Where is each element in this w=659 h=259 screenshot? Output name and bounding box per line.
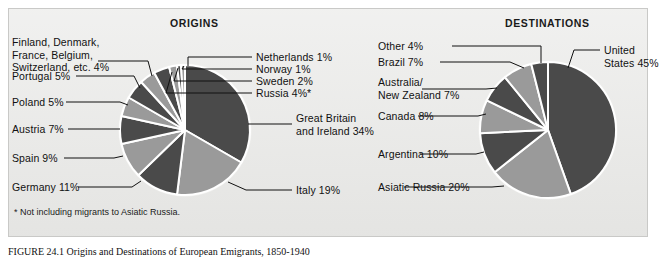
label-asiatic-russia: Asiatic Russia 20% [378,181,470,194]
label-finland-group-line2: France, Belgium, [12,49,109,62]
pie-origins [119,64,252,197]
label-austria: Austria 7% [12,123,64,136]
label-other: Other 4% [378,40,423,53]
label-argentina: Argentina 10% [378,148,448,161]
pie-destinations [479,61,618,200]
label-australia-new-zealand-line2: New Zealand 7% [378,89,459,102]
label-finland-group-line1: Finland, Denmark, [12,36,109,49]
label-sweden: Sweden 2% [256,75,313,88]
label-great-britain-ireland-line1: Great Britain [296,112,374,125]
label-australia-new-zealand-line1: Australia/ [378,76,459,89]
label-australia-new-zealand: Australia/ New Zealand 7% [378,76,459,101]
label-norway: Norway 1% [256,63,311,76]
footnote-asiatic-russia: * Not including migrants to Asiatic Russ… [14,207,180,217]
label-finland-group: Finland, Denmark, France, Belgium, Switz… [12,36,109,74]
label-netherlands: Netherlands 1% [256,51,332,64]
label-great-britain-ireland-line2: and Ireland 34% [296,125,374,138]
label-poland: Poland 5% [12,96,64,109]
label-russia: Russia 4%* [256,87,311,100]
label-italy: Italy 19% [296,184,340,197]
label-united-states-line2: States 45% [604,57,659,70]
label-portugal: Portugal 5% [12,70,70,83]
label-spain: Spain 9% [12,152,58,165]
label-germany: Germany 11% [12,181,79,194]
figure-caption: FIGURE 24.1 Origins and Destinations of … [8,246,310,257]
label-united-states: United States 45% [604,44,659,69]
label-brazil: Brazil 7% [378,56,423,69]
label-united-states-line1: United [604,44,659,57]
label-great-britain-ireland: Great Britain and Ireland 34% [296,112,374,137]
label-canada: Canada 8% [378,110,434,123]
